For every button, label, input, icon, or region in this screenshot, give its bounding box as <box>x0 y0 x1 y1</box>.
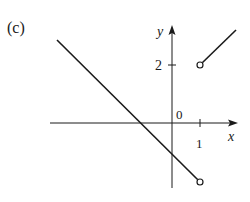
figure-label: (c) <box>7 19 25 37</box>
origin-label: 0 <box>176 107 183 122</box>
open-circle-icon <box>197 179 203 185</box>
piecewise-graph: (c) y x 0 1 2 <box>0 0 250 202</box>
right-segment <box>197 30 236 68</box>
y-axis <box>169 25 176 188</box>
open-circle-icon <box>197 62 203 68</box>
y-tick-label-2: 2 <box>155 58 162 73</box>
x-axis-label: x <box>227 129 235 144</box>
y-axis-label: y <box>155 24 164 39</box>
x-tick-label-1: 1 <box>196 136 203 151</box>
